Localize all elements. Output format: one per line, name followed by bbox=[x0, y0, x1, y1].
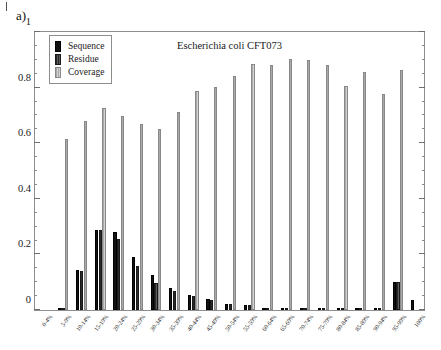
bar-residue bbox=[117, 239, 120, 310]
bar-group bbox=[244, 32, 255, 310]
bar-coverage bbox=[140, 124, 143, 310]
bar-group bbox=[374, 32, 385, 310]
legend-swatch-sequence bbox=[55, 41, 61, 52]
legend-label: Coverage bbox=[68, 66, 104, 79]
bar-sequence bbox=[355, 308, 358, 310]
bar-coverage bbox=[270, 65, 273, 310]
x-axis-tick-label: 65-69% bbox=[279, 313, 296, 332]
panel-label: a) bbox=[16, 8, 26, 24]
bar-residue bbox=[154, 283, 157, 310]
bar-sequence bbox=[188, 295, 191, 310]
x-axis-tick-label: 50-54% bbox=[223, 313, 240, 332]
bar-sequence bbox=[169, 288, 172, 310]
bar-residue bbox=[322, 308, 325, 310]
bar-residue bbox=[192, 296, 195, 310]
bar-sequence bbox=[206, 299, 209, 310]
bar-coverage bbox=[233, 76, 236, 310]
bar-group bbox=[318, 32, 329, 310]
bar-residue bbox=[359, 308, 362, 310]
bar-sequence bbox=[132, 257, 135, 310]
legend-label: Residue bbox=[68, 53, 99, 66]
x-axis-tick-label: 35-39% bbox=[167, 313, 184, 332]
x-axis-tick-label: 25-29% bbox=[130, 313, 147, 332]
bar-sequence bbox=[393, 282, 396, 310]
bar-sequence bbox=[374, 308, 377, 310]
bar-group bbox=[337, 32, 348, 310]
y-axis-tick-label: 0.4 bbox=[18, 182, 31, 193]
bar-residue bbox=[136, 266, 139, 310]
bar-sequence bbox=[281, 308, 284, 310]
bar-group bbox=[225, 32, 236, 310]
x-axis-tick-label: 60-64% bbox=[260, 313, 277, 332]
x-axis-tick-label: 40-44% bbox=[186, 313, 203, 332]
x-axis-tick-label: 55-59% bbox=[241, 313, 258, 332]
bar-group bbox=[151, 32, 162, 310]
bar-residue bbox=[210, 300, 213, 310]
x-axis-tick-label: 75-79% bbox=[316, 313, 333, 332]
bar-sequence bbox=[95, 230, 98, 310]
bar-coverage bbox=[195, 91, 198, 310]
bar-coverage bbox=[177, 112, 180, 310]
x-axis-tick-label: 80-84% bbox=[335, 313, 352, 332]
bar-group bbox=[132, 32, 143, 310]
x-axis-tick-label: 85-89% bbox=[353, 313, 370, 332]
bar-coverage bbox=[326, 65, 329, 310]
legend-label: Sequence bbox=[68, 40, 104, 53]
x-axis-tick-label: 90-94% bbox=[372, 313, 389, 332]
y-axis-tick-label: 0.2 bbox=[18, 238, 31, 249]
bar-sequence bbox=[58, 308, 61, 310]
y-axis-tick-label: 1 bbox=[26, 16, 31, 27]
bar-residue bbox=[341, 308, 344, 310]
y-axis-tick-label: 0 bbox=[26, 294, 31, 305]
bar-group bbox=[355, 32, 366, 310]
bar-residue bbox=[229, 304, 232, 310]
corner-tick-mark bbox=[6, 2, 7, 11]
bar-group bbox=[411, 32, 422, 310]
bar-coverage bbox=[65, 139, 68, 310]
bar-sequence bbox=[151, 275, 154, 310]
legend-item-residue: Residue bbox=[55, 53, 104, 66]
bar-residue bbox=[99, 230, 102, 310]
x-axis-tick-label: 95-99% bbox=[390, 313, 407, 332]
bar-residue bbox=[80, 271, 83, 310]
bar-group bbox=[188, 32, 199, 310]
bar-sequence bbox=[411, 300, 414, 310]
bar-coverage bbox=[307, 60, 310, 310]
bar-coverage bbox=[382, 94, 385, 310]
legend-item-sequence: Sequence bbox=[55, 40, 104, 53]
bar-sequence bbox=[300, 308, 303, 310]
x-axis-tick-label: 10-14% bbox=[74, 313, 91, 332]
bar-group bbox=[262, 32, 273, 310]
bar-group bbox=[206, 32, 217, 310]
bar-coverage bbox=[289, 59, 292, 310]
y-axis-tick-label: 0.6 bbox=[18, 127, 31, 138]
bar-residue bbox=[248, 305, 251, 310]
x-axis-labels: 0-4%5-9%10-14%15-19%20-24%25-29%30-34%35… bbox=[34, 313, 425, 350]
bar-residue bbox=[303, 308, 306, 310]
bar-coverage bbox=[363, 72, 366, 310]
figure-container: a) 00.20.40.60.81 Escherichia coli CFT07… bbox=[0, 0, 441, 350]
bar-residue bbox=[266, 308, 269, 310]
x-axis-tick-label: 0-4% bbox=[40, 313, 54, 328]
bar-coverage bbox=[251, 64, 254, 310]
bar-coverage bbox=[214, 87, 217, 310]
bar-coverage bbox=[84, 121, 87, 310]
legend-item-coverage: Coverage bbox=[55, 66, 104, 79]
x-axis-tick-label: 45-49% bbox=[204, 313, 221, 332]
bar-residue bbox=[378, 308, 381, 310]
x-axis-tick-label: 5-9% bbox=[59, 313, 73, 328]
bar-group bbox=[300, 32, 311, 310]
x-axis-tick-label: 30-34% bbox=[148, 313, 165, 332]
bar-sequence bbox=[244, 305, 247, 310]
legend-swatch-coverage bbox=[55, 67, 61, 78]
bar-coverage bbox=[400, 70, 403, 310]
bar-sequence bbox=[76, 270, 79, 310]
x-axis-tick-label: 15-19% bbox=[92, 313, 109, 332]
bar-group bbox=[393, 32, 404, 310]
bar-sequence bbox=[337, 308, 340, 310]
bar-residue bbox=[61, 308, 64, 310]
legend-swatch-residue bbox=[55, 54, 61, 65]
bar-coverage bbox=[121, 116, 124, 310]
y-axis-tick-label: 0.8 bbox=[18, 71, 31, 82]
bar-coverage bbox=[158, 129, 161, 310]
